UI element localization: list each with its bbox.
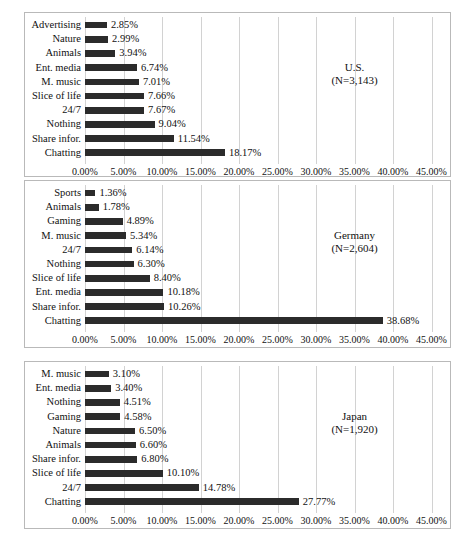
x-axis-tick-label: 35.00%	[339, 332, 370, 348]
category-label: Ent. media	[25, 285, 81, 299]
bar-container: 27.77%	[85, 495, 450, 509]
bar-container: 9.04%	[85, 117, 450, 131]
bar	[85, 399, 120, 406]
category-label: Slice of life	[25, 466, 81, 480]
bar-row: Chatting27.77%	[25, 495, 450, 509]
x-axis-tick-label: 10.00%	[147, 164, 178, 180]
bar-container: 7.66%	[85, 89, 450, 103]
category-label: Nothing	[25, 395, 81, 409]
bar	[85, 303, 164, 310]
category-label: Gaming	[25, 214, 81, 228]
bar-value-label: 7.01%	[143, 75, 170, 89]
x-axis-tick-label: 30.00%	[301, 513, 332, 529]
bar	[85, 36, 108, 43]
bar	[85, 470, 163, 477]
bar	[85, 289, 163, 296]
bar-container: 3.10%	[85, 367, 450, 381]
bar-row: Advertising2.85%	[25, 18, 450, 32]
chart-figure: Advertising2.85%Nature2.99%Animals3.94%E…	[0, 0, 469, 542]
bar-value-label: 1.78%	[103, 200, 130, 214]
bar	[85, 232, 126, 239]
bar-value-label: 18.17%	[229, 146, 261, 160]
bar-value-label: 2.99%	[112, 32, 139, 46]
x-axis: 0.00%5.00%10.00%15.00%20.00%25.00%30.00%…	[25, 513, 450, 529]
bar-value-label: 9.04%	[159, 117, 186, 131]
bar-value-label: 7.67%	[148, 103, 175, 117]
chart-panel: Advertising2.85%Nature2.99%Animals3.94%E…	[24, 12, 451, 177]
x-axis-tick-label: 35.00%	[339, 513, 370, 529]
bar-row: Slice of life7.66%	[25, 89, 450, 103]
x-axis-tick-label: 15.00%	[185, 332, 216, 348]
x-axis-tick-label: 10.00%	[147, 513, 178, 529]
bar-rows: Sports1.36%Animals1.78%Gaming4.89%M. mus…	[25, 186, 450, 328]
category-label: M. music	[25, 75, 81, 89]
bar	[85, 428, 135, 435]
bar-value-label: 5.34%	[130, 229, 157, 243]
bar-value-label: 10.26%	[168, 300, 200, 314]
x-axis-tick-label: 45.00%	[416, 164, 447, 180]
bar	[85, 107, 144, 114]
category-label: Slice of life	[25, 271, 81, 285]
bar	[85, 135, 174, 142]
bar	[85, 442, 136, 449]
bar-row: Share infor.10.26%	[25, 300, 450, 314]
x-axis-tick-label: 0.00%	[72, 332, 98, 348]
x-axis-tick-label: 45.00%	[416, 332, 447, 348]
bar-container: 4.51%	[85, 395, 450, 409]
bar	[85, 484, 199, 491]
bar	[85, 413, 120, 420]
bar-value-label: 3.40%	[115, 381, 142, 395]
category-label: Animals	[25, 438, 81, 452]
bar-value-label: 6.80%	[141, 452, 168, 466]
bar	[85, 121, 155, 128]
bar-row: Nothing6.30%	[25, 257, 450, 271]
bar	[85, 261, 134, 268]
bar	[85, 317, 383, 324]
bar-row: Chatting18.17%	[25, 146, 450, 160]
x-axis-tick-label: 20.00%	[224, 513, 255, 529]
bar-value-label: 38.68%	[387, 314, 419, 328]
bar-value-label: 7.66%	[148, 89, 175, 103]
category-label: Ent. media	[25, 61, 81, 75]
bar-container: 3.94%	[85, 46, 450, 60]
bar-container: 6.30%	[85, 257, 450, 271]
panel-title: Germany(N=2,604)	[316, 229, 393, 256]
panel-title-country: Japan	[342, 410, 367, 422]
bar-container: 38.68%	[85, 314, 450, 328]
category-label: Share infor.	[25, 300, 81, 314]
x-axis-tick-label: 15.00%	[185, 164, 216, 180]
x-axis-tick-label: 25.00%	[262, 164, 293, 180]
chart-panel: Sports1.36%Animals1.78%Gaming4.89%M. mus…	[24, 180, 451, 348]
bar-row: Sports1.36%	[25, 186, 450, 200]
bar-row: Slice of life10.10%	[25, 466, 450, 480]
bar	[85, 498, 299, 505]
category-label: Sports	[25, 186, 81, 200]
bar	[85, 50, 115, 57]
bar-container: 6.14%	[85, 243, 450, 257]
bar	[85, 22, 107, 29]
bar-container: 6.80%	[85, 452, 450, 466]
x-axis-tick-label: 35.00%	[339, 164, 370, 180]
bar	[85, 456, 137, 463]
category-label: Advertising	[25, 18, 81, 32]
bar-row: Share infor.11.54%	[25, 132, 450, 146]
bar-container: 2.99%	[85, 32, 450, 46]
panel-title-sample-size: (N=2,604)	[316, 242, 393, 256]
bar-container: 2.85%	[85, 18, 450, 32]
bar-row: Nothing4.51%	[25, 395, 450, 409]
panel-title-country: Germany	[334, 229, 375, 241]
bar-container: 6.50%	[85, 424, 450, 438]
bar-row: Chatting38.68%	[25, 314, 450, 328]
bar	[85, 218, 123, 225]
category-label: M. music	[25, 367, 81, 381]
bar-value-label: 6.74%	[141, 61, 168, 75]
x-axis-tick-label: 5.00%	[111, 513, 137, 529]
bar	[85, 93, 144, 100]
x-axis-tick-label: 0.00%	[72, 164, 98, 180]
bar-row: Slice of life8.40%	[25, 271, 450, 285]
x-axis-tick-label: 15.00%	[185, 513, 216, 529]
bar-container: 5.34%	[85, 229, 450, 243]
panel-title: Japan(N=1,920)	[316, 410, 393, 437]
x-axis-tick-label: 0.00%	[72, 513, 98, 529]
x-axis-tick-label: 40.00%	[378, 164, 409, 180]
